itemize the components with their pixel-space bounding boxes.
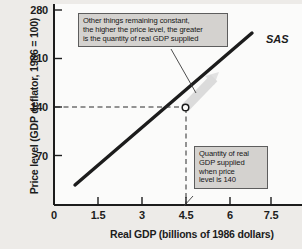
y-tick-marks: [54, 10, 62, 156]
x-axis-title: Real GDP (billions of 1986 dollars): [110, 228, 274, 240]
x-tick-label-1-5: 1.5: [83, 209, 113, 221]
supply-point-marker: [182, 104, 189, 111]
x-tick-label-3: 3: [127, 209, 157, 221]
x-tick-label-7-5: 7.5: [256, 209, 286, 221]
x-tick-label-4-5: 4.5: [171, 209, 201, 221]
y-axis-title: Price level (GDP deflator, 1986 = 100): [28, 6, 40, 206]
supply-relationship-callout: Other things remaining constant, the hig…: [78, 13, 228, 47]
callout-bottom-line-4: level is 140: [199, 176, 263, 185]
top-callout-leader: [171, 49, 196, 93]
x-tick-label-6: 6: [215, 209, 245, 221]
quantity-supplied-callout: Quantity of real GDP supplied when price…: [194, 146, 268, 189]
sas-curve-figure: 280 210 140 70 0 1.5 3 4.5 6 7.5 Real GD…: [0, 0, 302, 249]
callout-top-line-3: is the quantity of real GDP supplied: [83, 35, 223, 44]
sas-curve-label: SAS: [266, 33, 289, 45]
x-tick-label-0: 0: [39, 209, 69, 221]
x-tick-marks: [54, 197, 271, 205]
